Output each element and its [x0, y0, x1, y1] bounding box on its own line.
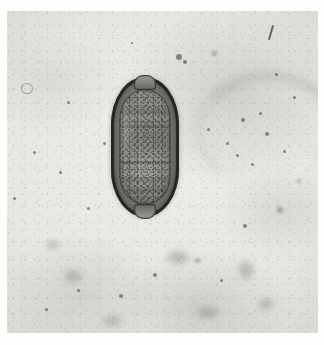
debris-speck [195, 258, 200, 263]
debris-speck [212, 51, 217, 56]
debris-speck [239, 261, 253, 279]
debris-speck [226, 142, 229, 145]
debris-speck [275, 73, 278, 76]
debris-speck [207, 128, 210, 131]
debris-speck [45, 308, 48, 311]
debris-speck [236, 154, 239, 157]
debris-speck [259, 112, 262, 115]
ovum-internal-band [121, 179, 169, 181]
photograph-frame [0, 0, 324, 345]
debris-speck [176, 54, 182, 60]
debris-speck [119, 294, 123, 298]
debris-speck [277, 207, 283, 213]
debris-speck [87, 207, 90, 210]
micrograph-print-area [7, 11, 318, 333]
ovum-internal-band [121, 189, 169, 191]
polar-plug-top-icon [134, 75, 156, 90]
debris-speck [220, 279, 223, 282]
debris-speck [167, 251, 189, 264]
debris-speck [33, 151, 36, 154]
debris-speck [131, 42, 133, 44]
debris-speck [198, 307, 218, 318]
debris-speck [183, 60, 187, 64]
debris-speck [259, 299, 273, 309]
debris-speck [293, 96, 296, 99]
egg-shell [111, 77, 179, 217]
debris-speck [153, 273, 157, 277]
debris-speck [103, 316, 121, 326]
debris-speck [265, 132, 269, 136]
polar-plug-bottom-icon [134, 204, 156, 219]
debris-speck [251, 163, 254, 166]
debris-speck [59, 171, 62, 174]
trichuris-egg [111, 77, 179, 217]
debris-speck [243, 224, 247, 228]
debris-speck [47, 241, 59, 249]
debris-speck [241, 118, 245, 122]
shell-highlight [119, 99, 134, 163]
debris-speck [77, 289, 80, 292]
debris-speck [297, 179, 301, 183]
debris-speck [65, 270, 81, 282]
debris-speck [21, 83, 33, 94]
debris-speck [13, 197, 16, 200]
debris-speck [283, 150, 286, 153]
debris-speck [67, 101, 70, 104]
